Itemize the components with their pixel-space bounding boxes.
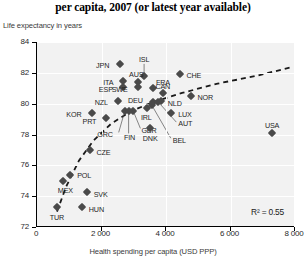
plot-area: JPNISLAUSITAFRACHEESPSWECANNORNZLDEUNLDK… <box>36 42 294 227</box>
y-tick-mark <box>32 42 36 43</box>
data-point-label: SWE <box>37 86 128 94</box>
y-tick-mark <box>32 73 36 74</box>
data-point-label: LUX <box>178 111 192 119</box>
x-tick-mark <box>165 227 166 231</box>
data-point-label: POL <box>77 172 91 180</box>
data-point-label: TUR <box>45 214 69 222</box>
data-point-label: JPN <box>37 62 109 70</box>
x-tick-mark <box>230 227 231 231</box>
gridline <box>231 42 232 226</box>
y-tick-label: 82 <box>7 68 29 77</box>
data-point-label: AUS <box>124 71 148 79</box>
y-tick-label: 74 <box>7 191 29 200</box>
data-point-label: NOR <box>198 94 214 102</box>
data-point-label: MEX <box>53 187 77 195</box>
y-tick-label: 84 <box>7 37 29 46</box>
data-point-label: PRT <box>37 118 96 126</box>
x-tick-label: 8 000 <box>271 229 306 238</box>
x-axis-label: Health spending per capita (USD PPP) <box>0 247 306 256</box>
data-point-label: USA <box>260 122 284 130</box>
y-tick-mark <box>32 165 36 166</box>
x-tick-mark <box>294 227 295 231</box>
data-point-label: SVK <box>94 191 108 199</box>
r-squared-annotation: R² = 0.55 <box>251 207 284 217</box>
data-point-label: DNK <box>138 135 162 143</box>
y-tick-label: 78 <box>7 130 29 139</box>
data-point-label: IRL <box>134 114 158 122</box>
y-tick-mark <box>32 196 36 197</box>
chart-title: per capita, 2007 (or latest year availab… <box>0 0 306 15</box>
y-tick-label: 80 <box>7 99 29 108</box>
data-point-label: CZE <box>97 149 111 157</box>
data-point-label: ISL <box>132 56 156 64</box>
y-tick-mark <box>32 135 36 136</box>
gridline <box>166 42 167 226</box>
data-point-label: HUN <box>89 206 104 214</box>
data-point-label: NLD <box>168 100 182 108</box>
data-point-label: AUT <box>178 120 192 128</box>
data-point-label: BEL <box>173 137 186 145</box>
y-axis-label: Life expectancy in years <box>3 21 82 30</box>
y-tick-mark <box>32 104 36 105</box>
data-point-label: DEU <box>37 97 143 105</box>
data-point-label: GRC <box>37 131 113 139</box>
y-tick-mark <box>32 227 36 228</box>
y-tick-label: 76 <box>7 160 29 169</box>
data-point-label: CHE <box>187 72 202 80</box>
x-tick-mark <box>101 227 102 231</box>
data-point-label: CAN <box>151 83 175 91</box>
chart-container: per capita, 2007 (or latest year availab… <box>0 0 306 271</box>
gridline <box>295 42 296 226</box>
x-tick-label: 0 <box>13 229 59 238</box>
